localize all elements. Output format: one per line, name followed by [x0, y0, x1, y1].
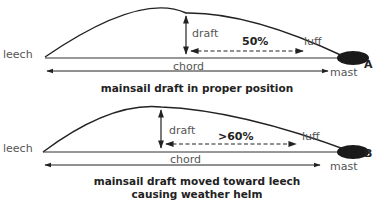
panel-tag-a: A [364, 58, 373, 71]
chord-label-a: chord [173, 60, 204, 73]
luff-label-a: luff [304, 35, 322, 48]
mast-label-a: mast [330, 66, 358, 79]
panel-b: leech draft >60% luff chord mast B mains… [3, 107, 372, 200]
percent-label-a: 50% [242, 35, 268, 48]
panel-a: leech draft 50% luff chord mast A mainsa… [3, 8, 373, 94]
percent-label-b: >60% [218, 130, 254, 143]
sail-draft-diagram: leech draft 50% luff chord mast A mainsa… [0, 0, 391, 207]
panel-tag-b: B [364, 147, 372, 160]
caption-a-line-1: mainsail draft in proper position [101, 82, 293, 94]
caption-b-line-1: mainsail draft moved toward leech [94, 175, 301, 187]
luff-label-b: luff [302, 130, 320, 143]
leech-label-a: leech [3, 48, 33, 61]
mast-label-b: mast [330, 160, 358, 173]
draft-label-b: draft [169, 124, 196, 137]
leech-label-b: leech [3, 142, 33, 155]
chord-label-b: chord [170, 153, 201, 166]
caption-b-line-2: causing weather helm [132, 188, 263, 200]
draft-label-a: draft [192, 27, 219, 40]
